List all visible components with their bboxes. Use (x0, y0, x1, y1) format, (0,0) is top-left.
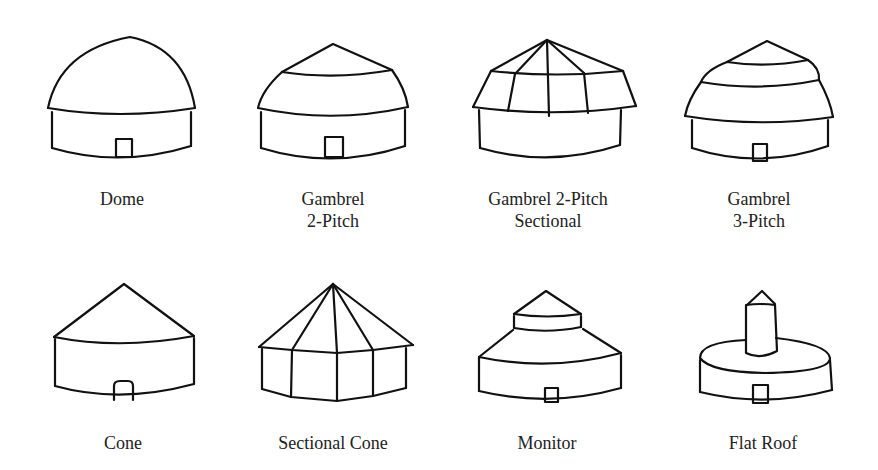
label-gambrel-3-pitch: Gambrel 3-Pitch (669, 188, 849, 232)
label-sectional-cone: Sectional Cone (243, 432, 423, 454)
label-line: Sectional Cone (243, 432, 423, 454)
gambrel-2-pitch-sectional-drawing (473, 40, 636, 157)
label-gambrel-2-pitch-sectional: Gambrel 2-Pitch Sectional (458, 188, 638, 232)
label-line: Sectional (458, 210, 638, 232)
label-cone: Cone (33, 432, 213, 454)
flat-roof-drawing (700, 291, 832, 403)
label-line: Dome (32, 188, 212, 210)
label-dome: Dome (32, 188, 212, 210)
label-line: 3-Pitch (669, 210, 849, 232)
label-line: Flat Roof (673, 432, 853, 454)
label-line: Cone (33, 432, 213, 454)
monitor-drawing (479, 291, 621, 402)
gambrel-3-pitch-drawing (685, 41, 833, 161)
label-line: 2-Pitch (243, 210, 423, 232)
label-line: Gambrel 2-Pitch (458, 188, 638, 210)
label-gambrel-2-pitch: Gambrel 2-Pitch (243, 188, 423, 232)
label-flat-roof: Flat Roof (673, 432, 853, 454)
sectional-cone-drawing (259, 284, 413, 401)
label-line: Gambrel (669, 188, 849, 210)
gambrel-2-pitch-drawing (258, 44, 408, 159)
cone-drawing (54, 284, 194, 400)
dome-drawing (48, 37, 195, 158)
roof-drawings (0, 0, 878, 470)
label-monitor: Monitor (457, 432, 637, 454)
label-line: Gambrel (243, 188, 423, 210)
label-line: Monitor (457, 432, 637, 454)
